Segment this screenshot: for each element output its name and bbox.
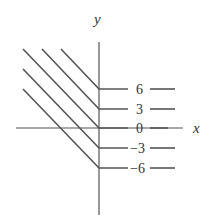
level-curve-label: 6	[136, 82, 143, 97]
level-curve-label: 3	[136, 102, 143, 117]
level-curve-label: −6	[130, 161, 145, 176]
level-curve-label: 0	[136, 121, 143, 136]
y-axis-label: y	[92, 11, 101, 27]
level-curves-diagram: y x 630−3−6	[0, 0, 213, 221]
x-axis-label: x	[192, 120, 200, 136]
level-curve	[42, 49, 128, 109]
level-curve	[61, 49, 128, 89]
level-curve-label: −3	[130, 141, 145, 156]
